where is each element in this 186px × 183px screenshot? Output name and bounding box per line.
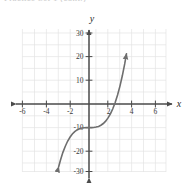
- y-tick-label: -30: [73, 167, 83, 176]
- x-tick-label: 6: [154, 107, 158, 116]
- y-tick-label: 20: [76, 52, 84, 61]
- x-tick-label: 4: [130, 107, 134, 116]
- grid-lines: [22, 29, 166, 172]
- y-tick-label: 10: [76, 76, 84, 85]
- y-axis-label: y: [89, 13, 95, 24]
- coordinate-plane-chart: -6 -4 -2 2 4 6 30 20 10 -10 -20 -30 x y: [0, 0, 186, 183]
- x-tick-label: -2: [67, 107, 73, 116]
- y-tick-label: -20: [73, 147, 83, 156]
- x-tick-label: -6: [19, 107, 25, 116]
- graph-figure: Practice Set 1 (cont.): [0, 0, 186, 183]
- x-axis-label: x: [176, 98, 182, 109]
- x-tick-label: -4: [43, 107, 49, 116]
- axis-lines: [16, 30, 172, 178]
- y-tick-label: 30: [76, 29, 84, 38]
